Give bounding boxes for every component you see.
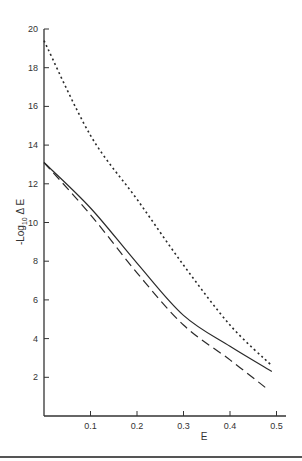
x-tick-label: 0.2: [131, 421, 144, 431]
y-tick-label: 6: [33, 295, 38, 305]
y-tick-label: 12: [28, 179, 38, 189]
x-axis-title: E: [201, 431, 208, 442]
y-axis-title: -Log10 Δ E: [15, 199, 28, 245]
series-solid-line: [44, 163, 272, 372]
series-group: [44, 41, 272, 389]
y-axis-title-subscript: 10: [21, 217, 28, 225]
axes: 2468101214161820 0.10.20.30.40.5: [28, 24, 286, 431]
x-tick-label: 0.5: [270, 421, 283, 431]
y-tick-label: 16: [28, 101, 38, 111]
bottom-rule: [0, 456, 302, 458]
x-tick-label: 0.3: [177, 421, 190, 431]
chart: 2468101214161820 0.10.20.30.40.5 E -Log1…: [0, 0, 302, 461]
y-axis-title-prefix: -Log: [15, 225, 26, 245]
y-tick-label: 18: [28, 63, 38, 73]
y-tick-label: 20: [28, 24, 38, 34]
y-axis-title-suffix: Δ E: [15, 199, 26, 218]
y-tick-label: 14: [28, 140, 38, 150]
series-dotted-line: [44, 41, 272, 366]
x-ticks: 0.10.20.30.40.5: [84, 411, 283, 431]
x-tick-label: 0.4: [224, 421, 237, 431]
y-tick-label: 8: [33, 256, 38, 266]
y-tick-label: 4: [33, 334, 38, 344]
y-tick-label: 2: [33, 372, 38, 382]
y-ticks: 2468101214161820: [28, 24, 49, 382]
series-dashed-line: [44, 163, 267, 389]
x-tick-label: 0.1: [84, 421, 97, 431]
y-tick-label: 10: [28, 218, 38, 228]
